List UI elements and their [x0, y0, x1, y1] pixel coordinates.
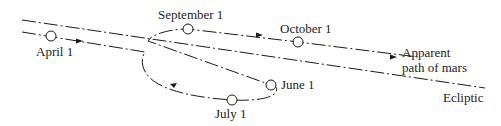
arrow-icon: [390, 55, 397, 60]
mars-retrograde-diagram: April 1 September 1 October 1 June 1 Jul…: [0, 0, 501, 126]
position-marker-june: [266, 80, 276, 90]
arrow-icon: [170, 83, 177, 88]
label-apparent-path: Apparent: [402, 45, 451, 60]
position-marker-october: [293, 37, 303, 47]
label-september: September 1: [158, 7, 223, 22]
label-october: October 1: [280, 21, 332, 36]
arrow-icon: [256, 33, 263, 38]
position-marker-july: [227, 95, 237, 105]
label-ecliptic: Ecliptic: [443, 90, 484, 105]
apparent-path-line: [22, 29, 418, 100]
label-apparent-path-2: path of mars: [402, 60, 467, 75]
position-marker-april: [46, 31, 56, 41]
arrow-icon: [76, 39, 83, 44]
label-july: July 1: [215, 106, 246, 121]
label-june: June 1: [281, 77, 315, 92]
label-april: April 1: [36, 44, 73, 59]
position-marker-september: [183, 24, 193, 34]
